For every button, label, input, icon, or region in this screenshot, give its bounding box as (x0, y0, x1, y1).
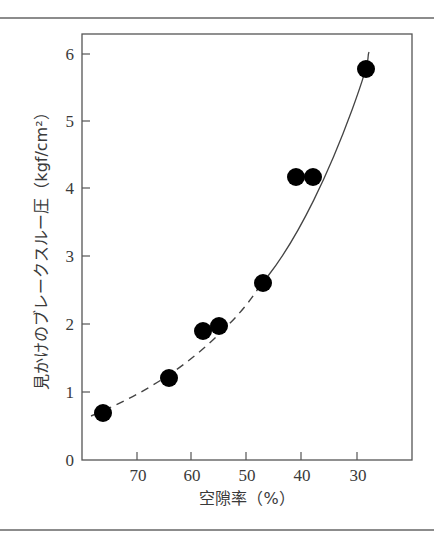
trend-curve-solid (268, 52, 369, 276)
trend-curve-dashed (91, 276, 268, 416)
y-tick-label: 1 (66, 383, 75, 402)
data-point (194, 322, 212, 340)
y-ticks (82, 54, 90, 392)
data-points (94, 60, 375, 422)
x-tick-label: 30 (350, 466, 367, 485)
y-tick-label: 4 (66, 179, 75, 198)
y-tick-label: 5 (66, 112, 75, 131)
data-point (160, 369, 178, 387)
x-tick-label: 60 (184, 466, 201, 485)
data-point (357, 60, 375, 78)
x-tick-label: 70 (130, 466, 147, 485)
y-axis-title: 見かけのブレークスルー圧（kgf/cm²） (32, 104, 51, 389)
y-tick-label: 0 (66, 451, 75, 470)
plot-frame (82, 34, 412, 460)
y-tick-labels: 0 1 2 3 4 5 6 (66, 45, 75, 470)
data-point (210, 317, 228, 335)
y-tick-label: 2 (66, 315, 75, 334)
y-tick-label: 3 (66, 247, 75, 266)
data-point (304, 168, 322, 186)
x-ticks (137, 452, 357, 460)
y-tick-label: 6 (66, 45, 75, 64)
data-point (94, 404, 112, 422)
chart: 0 1 2 3 4 5 6 70 60 50 40 30 空隙率（%） 見かけの… (0, 0, 434, 540)
x-tick-label: 40 (294, 466, 311, 485)
data-point (254, 274, 272, 292)
data-point (287, 168, 305, 186)
x-axis-title: 空隙率（%） (199, 489, 294, 508)
x-tick-label: 50 (239, 466, 256, 485)
x-tick-labels: 70 60 50 40 30 (130, 466, 367, 485)
